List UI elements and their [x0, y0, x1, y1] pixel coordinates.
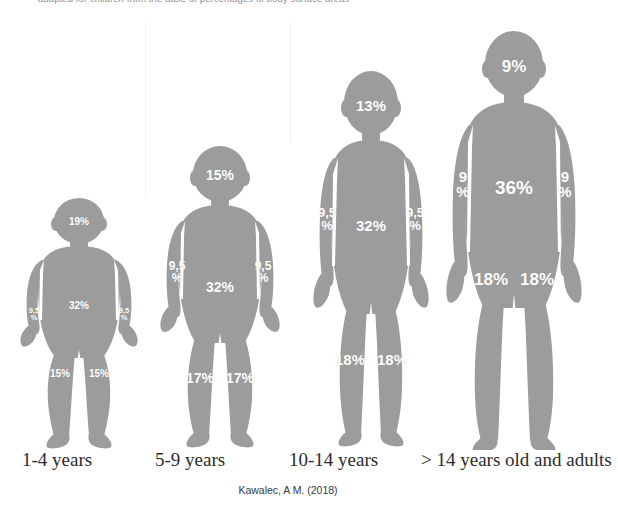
body-silhouette-10-14 [305, 70, 438, 450]
figures-area: 19% 32% 9,5 % 9,5 % 15% 15% [0, 0, 618, 450]
body-silhouette-adult [440, 30, 588, 450]
credit-text: Kawalec, A M. (2018) [238, 484, 337, 496]
figure-5-9-years: 15% 32% 9,5 % 9,5 % 17% 17% [155, 145, 285, 450]
age-label-adult: > 14 years old and adults [421, 449, 612, 471]
age-label-1-4: 1-4 years [22, 449, 92, 471]
figure-10-14-years: 13% 32% 9,5 % 9,5 % 18% 18% [305, 70, 438, 450]
figure-1-4-years: 19% 32% 9,5 % 9,5 % 15% 15% [16, 198, 142, 450]
age-group-labels: 1-4 years 5-9 years 10-14 years > 14 yea… [0, 449, 618, 483]
credit-line: Kawalec, A M. (2018) [0, 484, 618, 496]
figure-adult: 9% 36% 9 % 9 % 18% 18% [440, 30, 588, 450]
body-silhouette-5-9 [155, 145, 285, 450]
body-surface-area-diagram: adapted for children from the table of p… [0, 0, 618, 516]
age-label-5-9: 5-9 years [155, 449, 225, 471]
body-silhouette-1-4 [16, 198, 142, 450]
age-label-10-14: 10-14 years [289, 449, 378, 471]
